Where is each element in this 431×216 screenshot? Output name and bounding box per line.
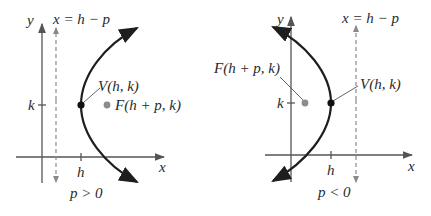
left-vertex-label: V(h, k)	[98, 78, 139, 95]
right-h-label: h	[327, 162, 335, 178]
right-focus-point	[302, 100, 309, 107]
left-directrix-label: x = h − p	[52, 11, 110, 27]
left-x-label: x	[158, 159, 166, 175]
right-x-label: x	[407, 158, 415, 174]
left-condition-label: p > 0	[69, 185, 103, 201]
right-parabola-lower	[273, 103, 331, 181]
left-parabola-lower	[81, 105, 137, 182]
left-vertex-point	[77, 101, 84, 108]
left-y-label: y	[25, 12, 34, 28]
right-parabola-upper	[273, 27, 331, 103]
left-focus-point	[104, 102, 111, 109]
right-vertex-leader	[333, 86, 358, 101]
right-k-label: k	[277, 95, 284, 111]
right-y-label: y	[275, 11, 284, 27]
parabola-diagrams: y x = h − p V(h, k) F(h + p, k) k h x p …	[0, 0, 431, 216]
right-vertex-label: V(h, k)	[360, 76, 401, 93]
right-focus-label: F(h + p, k)	[213, 60, 280, 77]
left-panel: y x = h − p V(h, k) F(h + p, k) k h x p …	[16, 11, 181, 201]
right-vertex-point	[327, 99, 334, 106]
left-focus-label: F(h + p, k)	[114, 97, 181, 114]
left-k-label: k	[28, 97, 35, 113]
right-directrix-label: x = h − p	[341, 10, 399, 26]
right-panel: y x = h − p V(h, k) F(h + p, k) k h x p …	[213, 10, 415, 200]
right-condition-label: p < 0	[317, 184, 351, 200]
left-h-label: h	[77, 164, 85, 180]
